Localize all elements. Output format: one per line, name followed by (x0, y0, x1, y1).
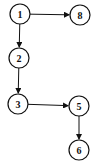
edge-2-3 (18, 68, 19, 93)
node-6: 6 (69, 140, 89, 160)
edge-1-2 (19, 24, 20, 47)
node-label: 1 (18, 9, 23, 20)
node-2: 2 (9, 48, 29, 68)
node-label: 8 (78, 10, 83, 21)
node-1: 1 (10, 4, 30, 24)
edge-1-8 (30, 14, 69, 15)
node-3: 3 (8, 94, 28, 114)
node-5: 5 (69, 96, 89, 116)
edges (18, 14, 79, 139)
nodes: 182356 (8, 4, 90, 160)
node-label: 6 (77, 145, 82, 156)
node-label: 3 (16, 99, 21, 110)
graph-canvas: 182356 (0, 0, 98, 165)
node-label: 5 (77, 101, 82, 112)
edge-3-5 (28, 104, 68, 105)
node-8: 8 (70, 5, 90, 25)
node-label: 2 (17, 53, 22, 64)
